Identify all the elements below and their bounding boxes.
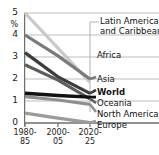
y-axis-label-0: 0 <box>4 118 18 127</box>
series-label-oceania: Oceania <box>97 99 132 109</box>
y-axis-label-5: 5 <box>4 8 18 17</box>
y-axis-label-3: 3 <box>4 52 18 61</box>
label-connectors <box>90 77 96 123</box>
x-tick-1-line1: 1980- <box>13 128 36 137</box>
y-axis-unit-percent: % <box>4 21 18 29</box>
series-label-asia: Asia <box>97 75 115 85</box>
x-tick-2-line1: 2000- <box>46 128 69 137</box>
series-label-north-america: North America <box>97 110 159 120</box>
series-label-world: World <box>97 88 125 98</box>
y-axis-label-1: 1 <box>4 96 18 105</box>
series-label-latin-america-line2: and Caribbean <box>100 27 159 37</box>
x-tick-1-line2: 85 <box>8 137 42 146</box>
connector-europe <box>90 121 96 123</box>
series-label-latin-america-line1: Latin America <box>100 16 159 26</box>
x-tick-3-line2: 25 <box>73 137 107 146</box>
x-tick-2-line2: 05 <box>41 137 75 146</box>
x-axis-tick-label-2000-05: 2000- 05 <box>41 128 75 146</box>
series-label-europe: Europe <box>97 121 127 131</box>
x-axis-tick-label-2020-25: 2020- 25 <box>73 128 107 146</box>
series-line-europe <box>25 113 90 123</box>
series-label-latin-america: Latin America and Caribbean <box>100 17 159 36</box>
connector-asia <box>90 90 96 93</box>
y-axis-label-2: 2 <box>4 74 18 83</box>
x-axis-tick-label-1980-85: 1980- 85 <box>8 128 42 146</box>
fertility-decline-line-chart: 5 % 4 3 2 1 0 1980- 85 2000- 05 2020- 25… <box>0 0 159 155</box>
y-axis-label-4: 4 <box>4 30 18 39</box>
series-lines <box>25 13 90 123</box>
connector-north-america <box>90 104 96 112</box>
connector-oceania <box>90 99 96 103</box>
series-label-africa: Africa <box>97 51 121 61</box>
